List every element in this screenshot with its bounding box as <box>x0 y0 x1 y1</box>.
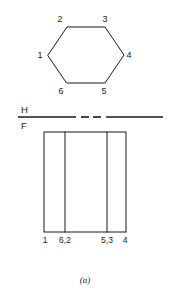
front-view-label-4: 4 <box>123 235 128 245</box>
top-view-group: 1 2 3 4 5 6 <box>37 14 131 96</box>
horizontal-plane-label: H <box>21 104 28 115</box>
front-view-outline <box>44 132 126 232</box>
vertex-label-1: 1 <box>37 50 42 60</box>
frontal-plane-label: F <box>21 120 27 131</box>
figure-caption: (a) <box>80 275 91 285</box>
front-view-label-6-2: 6,2 <box>59 235 71 245</box>
vertex-label-3: 3 <box>102 14 107 24</box>
orthographic-projection-figure: 1 2 3 4 5 6 H F 1 6,2 5,3 4 (a) <box>0 0 171 302</box>
front-view-label-1: 1 <box>43 235 48 245</box>
front-view-group: 1 6,2 5,3 4 <box>43 132 128 245</box>
vertex-label-6: 6 <box>58 86 63 96</box>
vertex-label-4: 4 <box>126 50 131 60</box>
vertex-label-5: 5 <box>101 86 106 96</box>
front-view-label-5-3: 5,3 <box>101 235 113 245</box>
vertex-label-2: 2 <box>57 14 62 24</box>
figure-canvas: 1 2 3 4 5 6 H F 1 6,2 5,3 4 (a) <box>0 0 171 302</box>
fold-line-group: H F <box>18 104 163 131</box>
hexagon-outline <box>48 27 124 83</box>
